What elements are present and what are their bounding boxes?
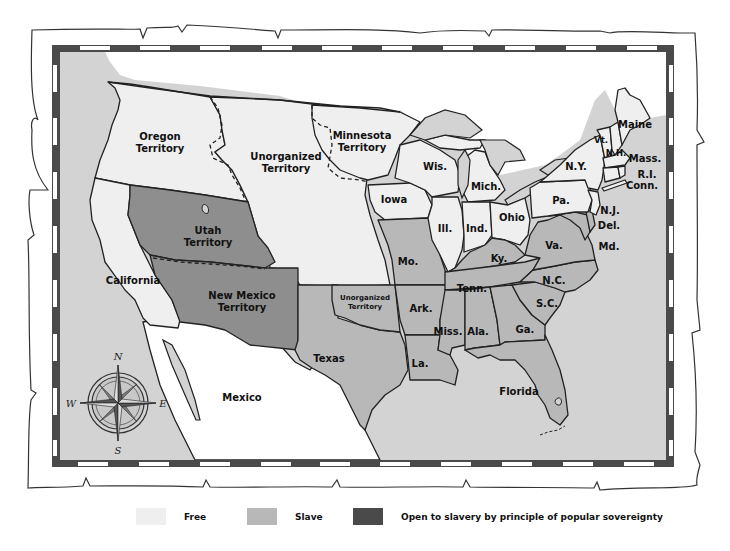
compass-north: N <box>113 351 124 362</box>
label-california: California <box>106 275 160 286</box>
label-oregon-territory-2: Territory <box>136 143 185 154</box>
label-minnesota-territory-2: Territory <box>338 142 387 153</box>
label-new-york: N.Y. <box>565 161 587 172</box>
label-vermont: Vt. <box>594 135 608 145</box>
label-kentucky: Ky. <box>491 253 508 264</box>
label-south-carolina: S.C. <box>536 298 558 309</box>
legend-item-popular-sovereignty: Open to slavery by principle of popular … <box>353 508 663 525</box>
label-mexico: Mexico <box>222 392 262 403</box>
label-michigan: Mich. <box>471 181 501 192</box>
compass-east: E <box>158 398 167 409</box>
label-louisiana: La. <box>412 358 429 369</box>
label-unorganized-territory-north-2: Territory <box>262 163 311 174</box>
label-mississippi: Miss. <box>433 326 462 337</box>
legend-label-slave: Slave <box>295 512 323 522</box>
label-virginia: Va. <box>545 240 563 251</box>
label-georgia: Ga. <box>516 324 535 335</box>
legend-label-free: Free <box>184 512 206 522</box>
label-connecticut: Conn. <box>626 180 658 191</box>
label-rhode-island: R.I. <box>637 169 656 180</box>
label-utah-territory-2: Territory <box>184 237 233 248</box>
legend-item-slave: Slave <box>247 508 323 525</box>
label-unorganized-territory-south-1: Unorganized <box>340 294 390 302</box>
label-utah-territory-1: Utah <box>195 225 222 236</box>
label-maine: Maine <box>618 119 652 130</box>
label-missouri: Mo. <box>398 256 419 267</box>
label-new-jersey: N.J. <box>600 205 620 216</box>
legend-item-free: Free <box>136 508 206 525</box>
region-rhode-island <box>618 166 625 178</box>
legend-swatch-slave <box>247 508 277 525</box>
label-texas: Texas <box>313 353 344 364</box>
compass-west: W <box>66 398 77 409</box>
label-indiana: Ind. <box>466 223 488 234</box>
great-salt-lake <box>202 205 208 214</box>
compass-south: S <box>115 445 122 456</box>
lake-okeechobee <box>555 398 561 405</box>
label-new-hampshire: N.H. <box>606 148 627 158</box>
label-delaware: Del. <box>598 220 620 231</box>
label-pennsylvania: Pa. <box>552 195 570 206</box>
label-florida: Florida <box>499 386 538 397</box>
legend-label-popular-sovereignty: Open to slavery by principle of popular … <box>401 512 663 522</box>
label-minnesota-territory-1: Minnesota <box>333 130 392 141</box>
label-unorganized-territory-south-2: Territory <box>348 303 383 311</box>
label-maryland: Md. <box>599 241 620 252</box>
label-iowa: Iowa <box>381 194 408 205</box>
map-legend: Free Slave Open to slavery by principle … <box>0 508 730 528</box>
map-container: Oregon Territory Unorganized Territory M… <box>0 0 730 551</box>
label-alabama: Ala. <box>467 326 489 337</box>
legend-swatch-free <box>136 508 166 525</box>
label-unorganized-territory-north-1: Unorganized <box>250 151 321 162</box>
label-north-carolina: N.C. <box>542 275 565 286</box>
label-massachusetts: Mass. <box>629 153 661 164</box>
label-new-mexico-territory-1: New Mexico <box>208 290 275 301</box>
label-illinois: Ill. <box>438 223 452 234</box>
label-wisconsin: Wis. <box>423 161 447 172</box>
map-svg: Oregon Territory Unorganized Territory M… <box>0 0 730 551</box>
label-tennessee: Tenn. <box>457 283 487 294</box>
legend-swatch-popular-sovereignty <box>353 508 383 525</box>
label-new-mexico-territory-2: Territory <box>218 302 267 313</box>
label-ohio: Ohio <box>499 212 525 223</box>
label-oregon-territory-1: Oregon <box>139 131 180 142</box>
label-arkansas: Ark. <box>409 303 432 314</box>
